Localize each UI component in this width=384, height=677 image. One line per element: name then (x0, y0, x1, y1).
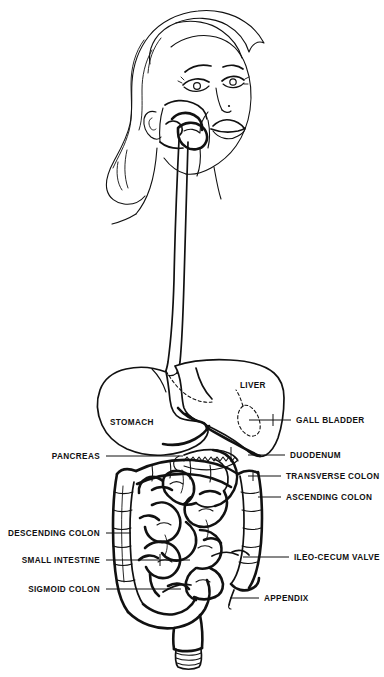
descending-colon-inner-wall (130, 482, 143, 604)
small-intestine-coil-13 (139, 556, 158, 560)
label-appendix: APPENDIX (264, 594, 309, 603)
anal-canal-ring-1 (176, 653, 201, 655)
nose-bridge (216, 88, 222, 110)
hair-strand-4 (125, 150, 128, 188)
eyebrow-left (185, 65, 211, 72)
sigmoid-lower-wall (143, 598, 196, 615)
ear-outline (144, 111, 161, 139)
digestive-system-figure: PANCREAS DESCENDING COLON SMALL INTESTIN… (0, 0, 384, 677)
esophagus-right-wall (177, 142, 188, 373)
shoulder-left (112, 214, 136, 224)
anatomy-illustration: PANCREAS DESCENDING COLON SMALL INTESTIN… (0, 0, 384, 677)
small-intestine-detail-3 (157, 523, 171, 525)
label-ascending-colon: ASCENDING COLON (286, 493, 372, 502)
label-stomach: STOMACH (110, 418, 154, 427)
sigmoid-upper-wall (128, 580, 209, 628)
small-intestine-coil-6 (197, 530, 221, 569)
tongue-inner (184, 129, 200, 133)
larynx-contour (197, 148, 200, 176)
small-intestine-detail-5 (198, 546, 212, 548)
eye-left-iris (194, 83, 201, 90)
eye-right-lashes (244, 77, 249, 84)
small-intestine-coil-10 (200, 491, 220, 494)
eye-left-lower-lid (184, 86, 209, 91)
splenic-flexure (117, 469, 136, 474)
label-pancreas: PANCREAS (52, 452, 100, 461)
small-intestine-detail-1 (170, 482, 183, 484)
ear-inner (149, 118, 156, 130)
label-duodenum: DUODENUM (290, 451, 341, 460)
jawline (164, 158, 186, 174)
rectum-left-wall (173, 628, 174, 649)
cecum-outline (231, 578, 259, 590)
small-intestine-coil-9 (152, 487, 172, 490)
pancreas-tail (174, 456, 183, 471)
sigmoid-rectum-group (128, 580, 209, 669)
pharynx-wall-right (208, 120, 210, 148)
small-intestine-group (139, 471, 227, 600)
small-intestine-coil-11 (140, 516, 159, 520)
anal-canal-ring-2 (176, 658, 201, 660)
eye-right-iris (230, 79, 236, 85)
label-liver: LIVER (240, 381, 266, 390)
eye-left-upper-lid (183, 79, 209, 85)
label-sigmoid-colon: SIGMOID COLON (28, 585, 100, 594)
label-gall-bladder: GALL BLADDER (296, 416, 365, 425)
hair-top-sweep (176, 21, 242, 58)
label-ileo-cecum-valve: ILEO-CECUM VALVE (294, 553, 380, 562)
nose-tip (222, 110, 231, 112)
neck-right (214, 167, 221, 199)
ileum-entering-cecum (212, 552, 238, 556)
face-outline (171, 35, 251, 174)
esophagus-group (165, 140, 188, 376)
small-intestine-detail-2 (199, 509, 213, 511)
mesentery-line-3 (165, 535, 167, 555)
appendix-tip (229, 605, 231, 609)
upper-lip (213, 120, 244, 128)
rectum-ampulla (174, 648, 202, 651)
anal-canal-ring-3 (177, 663, 200, 665)
hair-inner-waves (113, 40, 144, 168)
hepatic-flexure (238, 471, 258, 474)
duodenojejunal-flexure (196, 503, 215, 507)
eyebrow-right (223, 65, 243, 69)
mouth-line (211, 128, 245, 132)
head-and-face-group (106, 10, 264, 224)
hair-outline (106, 10, 264, 204)
hair-strand-3 (117, 162, 122, 190)
label-transverse-colon: TRANSVERSE COLON (286, 472, 379, 481)
esophagus-left-wall (165, 140, 179, 373)
rectum-right-wall (200, 615, 202, 648)
nasal-cavity-outline (165, 101, 207, 119)
neck-left (136, 148, 157, 214)
taenia-coli-left (122, 486, 124, 582)
descending-colon-outer-wall (113, 474, 128, 612)
nostril (228, 105, 230, 107)
label-descending-colon: DESCENDING COLON (8, 529, 100, 538)
small-intestine-coil-7 (210, 568, 223, 597)
label-small-intestine: SMALL INTESTINE (22, 556, 101, 565)
eye-left-lashes (178, 77, 184, 83)
ileum-loop-lower (194, 597, 215, 599)
